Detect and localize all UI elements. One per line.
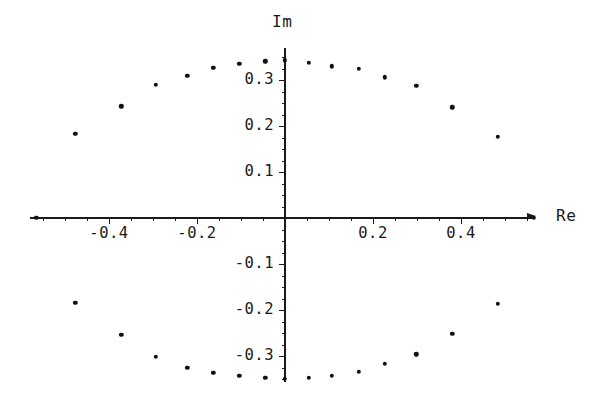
x-axis-minor-tick <box>329 218 330 221</box>
data-point <box>119 104 123 108</box>
x-axis-minor-tick <box>417 218 418 221</box>
y-axis-minor-tick <box>282 299 286 300</box>
data-point <box>307 376 311 380</box>
x-axis-minor-tick <box>351 218 352 221</box>
data-point <box>330 374 334 378</box>
y-axis-minor-tick <box>282 345 286 346</box>
data-point <box>263 59 267 63</box>
data-point <box>357 67 361 71</box>
data-point <box>496 302 500 306</box>
data-point <box>383 75 387 79</box>
x-tick-label: 0.4 <box>446 226 476 242</box>
data-point <box>283 377 287 381</box>
data-point <box>330 64 334 68</box>
y-axis-major-tick <box>279 172 285 173</box>
y-axis-major-tick <box>279 80 285 81</box>
data-point <box>357 370 361 374</box>
x-axis-minor-tick <box>65 218 66 221</box>
y-axis-minor-tick <box>282 207 286 208</box>
data-point <box>119 333 123 337</box>
x-axis-minor-tick <box>483 218 484 221</box>
y-tick-label: -0.3 <box>235 348 274 364</box>
y-axis-minor-tick <box>282 287 286 288</box>
x-axis-major-tick <box>197 218 198 224</box>
y-axis-minor-tick <box>282 253 286 254</box>
data-point <box>307 61 311 65</box>
y-axis-minor-tick <box>282 322 286 323</box>
complex-plane-scatter-plot: -0.4-0.20.20.4 0.30.20.1-0.1-0.2-0.3 Im … <box>0 0 599 409</box>
y-axis-minor-tick <box>282 138 286 139</box>
y-axis-minor-tick <box>282 103 286 104</box>
x-axis-minor-tick <box>153 218 154 221</box>
x-axis-minor-tick <box>43 218 44 221</box>
real-axis-title: Re <box>556 208 576 224</box>
y-axis-minor-tick <box>282 149 286 150</box>
x-axis-minor-tick <box>527 218 528 221</box>
data-point <box>450 105 454 109</box>
x-tick-label: -0.4 <box>89 226 128 242</box>
x-axis-major-tick <box>461 218 462 224</box>
y-axis-major-tick <box>279 356 285 357</box>
y-axis-minor-tick <box>282 368 286 369</box>
x-axis-minor-tick <box>241 218 242 221</box>
x-axis-major-tick <box>373 218 374 224</box>
x-axis-minor-tick <box>175 218 176 221</box>
data-point <box>154 83 158 87</box>
y-axis-minor-tick <box>282 218 286 219</box>
imaginary-axis-title: Im <box>272 14 292 30</box>
x-tick-label: 0.2 <box>358 226 388 242</box>
imaginary-axis-line <box>284 48 286 382</box>
y-axis-minor-tick <box>282 230 286 231</box>
data-point <box>283 58 287 62</box>
x-axis-minor-tick <box>131 218 132 221</box>
y-axis-minor-tick <box>282 195 286 196</box>
data-point <box>237 374 241 378</box>
data-point <box>414 84 418 88</box>
y-axis-minor-tick <box>282 333 286 334</box>
data-point <box>211 66 215 70</box>
x-axis-minor-tick <box>307 218 308 221</box>
y-axis-minor-tick <box>282 161 286 162</box>
y-axis-major-tick <box>279 264 285 265</box>
data-point <box>450 332 454 336</box>
x-axis-minor-tick <box>87 218 88 221</box>
data-point <box>73 132 77 136</box>
data-point <box>237 62 241 66</box>
x-axis-minor-tick <box>439 218 440 221</box>
x-axis-minor-tick <box>263 218 264 221</box>
data-point <box>531 216 535 220</box>
y-axis-minor-tick <box>282 92 286 93</box>
data-point <box>211 371 215 375</box>
y-axis-major-tick <box>279 126 285 127</box>
data-point <box>414 352 418 356</box>
y-axis-major-tick <box>279 310 285 311</box>
y-tick-label: -0.2 <box>235 302 274 318</box>
y-axis-minor-tick <box>282 115 286 116</box>
x-axis-minor-tick <box>395 218 396 221</box>
data-point <box>34 216 38 220</box>
data-point <box>185 74 189 78</box>
x-tick-label: -0.2 <box>177 226 216 242</box>
data-point <box>496 135 500 139</box>
y-axis-minor-tick <box>282 241 286 242</box>
y-tick-label: 0.2 <box>245 118 275 134</box>
x-axis-minor-tick <box>505 218 506 221</box>
y-axis-minor-tick <box>282 276 286 277</box>
x-axis-minor-tick <box>285 218 286 221</box>
data-point <box>383 362 387 366</box>
y-axis-minor-tick <box>282 69 286 70</box>
y-tick-label: 0.3 <box>245 72 275 88</box>
y-tick-label: 0.1 <box>245 164 275 180</box>
y-axis-minor-tick <box>282 184 286 185</box>
data-point <box>73 301 77 305</box>
x-axis-minor-tick <box>219 218 220 221</box>
data-point <box>263 376 267 380</box>
data-point <box>185 366 189 370</box>
y-tick-label: -0.1 <box>235 256 274 272</box>
x-axis-major-tick <box>109 218 110 224</box>
data-point <box>154 355 158 359</box>
